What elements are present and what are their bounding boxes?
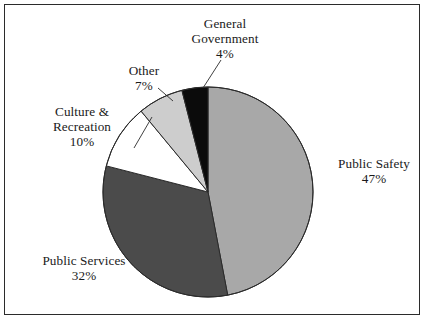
slice-label-general-government-line1: General (160, 16, 290, 31)
slice-label-culture-recreation-line2: Recreation (28, 119, 136, 134)
slice-label-public-safety-line1: Public Safety (322, 156, 426, 171)
slice-label-culture-recreation: Culture & Recreation 10% (28, 104, 136, 149)
slice-value-public-services: 32% (18, 268, 150, 283)
slice-value-general-government: 4% (160, 46, 290, 61)
slice-label-public-services: Public Services 32% (18, 253, 150, 283)
slice-label-other: Other 7% (106, 63, 182, 93)
slice-label-general-government: General Government 4% (160, 16, 290, 61)
slice-value-culture-recreation: 10% (28, 134, 136, 149)
slice-value-public-safety: 47% (322, 171, 426, 186)
pie-slice-public-safety[interactable] (208, 87, 313, 295)
slice-label-public-safety: Public Safety 47% (322, 156, 426, 186)
slice-label-culture-recreation-line1: Culture & (28, 104, 136, 119)
chart-plot-area: General Government 4% Other 7% Culture &… (0, 0, 429, 329)
slice-label-general-government-line2: Government (160, 31, 290, 46)
pie-chart-figure: General Government 4% Other 7% Culture &… (0, 0, 429, 329)
slice-label-public-services-line1: Public Services (18, 253, 150, 268)
slice-label-other-line1: Other (106, 63, 182, 78)
leader-line-general-government (203, 60, 221, 88)
slice-value-other: 7% (106, 78, 182, 93)
